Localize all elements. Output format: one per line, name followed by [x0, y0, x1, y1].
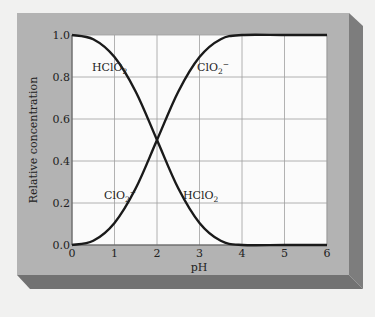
- label-base: HClO: [92, 61, 123, 74]
- y-tick-label: 0.0: [53, 239, 71, 252]
- x-tick-label: 3: [196, 247, 203, 260]
- x-axis-label: pH: [191, 261, 208, 274]
- label-base: ClO: [104, 189, 125, 202]
- label-hclo2-top: HClO2: [92, 61, 128, 76]
- label-hclo2-bottom: HClO2: [183, 189, 219, 204]
- label-sub: 2: [214, 195, 219, 204]
- y-tick-label: 1.0: [53, 29, 71, 42]
- label-base: ClO: [197, 61, 218, 74]
- y-tick-label: 0.8: [53, 71, 71, 84]
- panel-bottom-side: [17, 275, 363, 289]
- x-tick-label: 5: [281, 247, 288, 260]
- label-base: HClO: [183, 189, 214, 202]
- x-tick-label: 0: [69, 247, 76, 260]
- x-tick-label: 2: [154, 247, 161, 260]
- x-tick-label: 4: [239, 247, 246, 260]
- y-tick-label: 0.6: [53, 113, 71, 126]
- x-tick-label: 6: [324, 247, 331, 260]
- y-axis-label: Relative concentration: [27, 77, 40, 204]
- label-sup: −: [130, 188, 136, 197]
- chart: 0.00.20.40.60.81.0 0123456 pH Relative c…: [0, 0, 375, 317]
- y-tick-label: 0.2: [53, 197, 71, 210]
- label-sup: −: [223, 60, 229, 69]
- y-tick-label: 0.4: [53, 155, 71, 168]
- x-tick-label: 1: [111, 247, 118, 260]
- panel-right-side: [349, 13, 363, 289]
- label-sub: 2: [123, 67, 128, 76]
